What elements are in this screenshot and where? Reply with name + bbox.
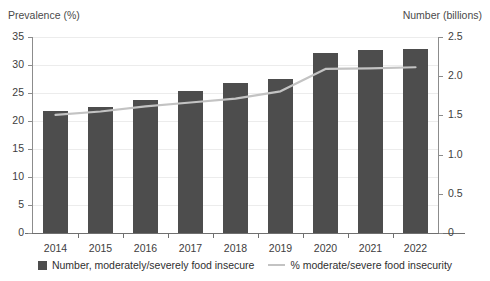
x-axis-tick [123, 233, 124, 238]
left-axis-tick [28, 205, 32, 206]
left-axis-tick-label: 10 [12, 171, 24, 182]
x-axis-label: 2021 [349, 242, 393, 254]
right-axis-tick [439, 37, 443, 38]
x-axis-line [25, 233, 465, 234]
right-axis-tick [439, 233, 443, 234]
x-axis-tick [258, 233, 259, 238]
right-axis-tick [439, 194, 443, 195]
legend-label-bar: Number, moderately/severely food insecur… [52, 259, 255, 271]
x-axis-tick [393, 233, 394, 238]
right-axis-tick [439, 76, 443, 77]
left-axis-tick-label: 0 [18, 227, 24, 238]
left-axis-tick [28, 121, 32, 122]
left-axis-tick [28, 65, 32, 66]
bar-swatch-icon [38, 261, 47, 270]
left-axis-tick [28, 233, 32, 234]
left-axis-tick-label: 35 [12, 31, 24, 42]
x-axis-tick [213, 233, 214, 238]
line-path [56, 67, 416, 115]
left-axis-tick-label: 5 [18, 199, 24, 210]
left-axis-tick [28, 37, 32, 38]
right-axis-tick [439, 115, 443, 116]
line-series [33, 37, 438, 233]
left-axis-tick-label: 30 [12, 59, 24, 70]
x-axis-tick [168, 233, 169, 238]
right-axis-title: Number (billions) [403, 9, 482, 21]
right-axis-tick [439, 155, 443, 156]
right-axis-tick-label: 0 [448, 227, 454, 238]
x-axis-label: 2017 [169, 242, 213, 254]
left-axis-tick-label: 15 [12, 143, 24, 154]
legend-item-line: % moderate/severe food insecurity [268, 259, 452, 271]
line-swatch-icon [268, 264, 285, 266]
right-axis-tick-label: 0.5 [448, 188, 463, 199]
right-axis-tick-label: 2.0 [448, 70, 463, 81]
x-axis-label: 2015 [79, 242, 123, 254]
x-axis-label: 2022 [394, 242, 438, 254]
legend-label-line: % moderate/severe food insecurity [290, 259, 452, 271]
left-axis-tick [28, 93, 32, 94]
legend-item-bar: Number, moderately/severely food insecur… [38, 259, 255, 271]
left-axis-tick-label: 25 [12, 87, 24, 98]
x-axis-label: 2019 [259, 242, 303, 254]
plot-area: 35302520151050 2.52.01.51.00.50 [33, 37, 438, 233]
left-axis-title: Prevalence (%) [8, 9, 80, 21]
x-axis-tick [78, 233, 79, 238]
x-axis-label: 2016 [124, 242, 168, 254]
right-axis-tick-label: 2.5 [448, 31, 463, 42]
left-axis-tick [28, 149, 32, 150]
x-axis-label: 2020 [304, 242, 348, 254]
x-axis-label: 2014 [34, 242, 78, 254]
x-axis-tick [348, 233, 349, 238]
right-axis-line [438, 37, 439, 234]
right-axis-tick-label: 1.5 [448, 109, 463, 120]
chart-container: Prevalence (%) Number (billions) 3530252… [0, 0, 490, 281]
left-axis-tick [28, 177, 32, 178]
x-axis-tick [303, 233, 304, 238]
x-axis-label: 2018 [214, 242, 258, 254]
right-axis-tick-label: 1.0 [448, 149, 463, 160]
chart-legend: Number, moderately/severely food insecur… [0, 259, 490, 271]
left-axis-tick-label: 20 [12, 115, 24, 126]
